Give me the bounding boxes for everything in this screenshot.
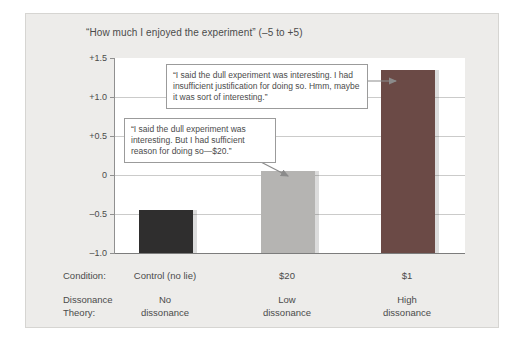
callout-sufficient-reason: “I said the dull experiment was interest… [124, 118, 276, 163]
callout-text: “I said the dull experiment was interest… [131, 124, 246, 156]
y-axis-tick [110, 214, 115, 215]
condition-row-header: Condition: [63, 269, 106, 282]
y-axis-tick [110, 58, 115, 59]
y-axis-tick [110, 253, 115, 254]
callout-insufficient-justification: “I said the dull experiment was interest… [166, 64, 368, 109]
figure-panel: “How much I enjoyed the experiment” (–5 … [25, 13, 499, 328]
bar--20 [261, 171, 315, 253]
condition-label-1-dollar: $1 [347, 269, 467, 282]
y-axis-label: –0.5 [71, 209, 107, 219]
bar--1 [381, 70, 435, 253]
chart-title: “How much I enjoyed the experiment” (–5 … [86, 27, 303, 38]
y-axis-label: 0 [71, 170, 107, 180]
y-axis-tick [110, 97, 115, 98]
y-axis-tick [110, 136, 115, 137]
condition-label-20-dollars: $20 [227, 269, 347, 282]
dissonance-label-low: Low dissonance [227, 293, 347, 319]
callout-text: “I said the dull experiment was interest… [173, 70, 359, 102]
dissonance-label-no: No dissonance [105, 293, 225, 319]
condition-label-control: Control (no lie) [105, 269, 225, 282]
bar-control-no-lie- [139, 210, 193, 253]
y-axis-label: +0.5 [71, 131, 107, 141]
dissonance-label-high: High dissonance [347, 293, 467, 319]
y-axis-label: –1.0 [71, 248, 107, 258]
y-axis-label: +1.5 [71, 53, 107, 63]
y-axis-label: +1.0 [71, 92, 107, 102]
y-axis-tick [110, 175, 115, 176]
